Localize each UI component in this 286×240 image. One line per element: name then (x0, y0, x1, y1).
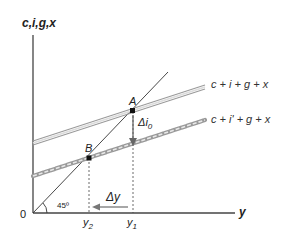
origin-label: 0 (20, 208, 26, 220)
lower-curve-label: c + i' + g + x (211, 113, 270, 125)
delta-y-label: Δy (106, 190, 120, 204)
point-b-marker (87, 156, 92, 161)
y1-tick-label: y1 (127, 216, 137, 231)
point-a-label: A (129, 95, 136, 107)
upper-curve (33, 85, 205, 145)
diagonal-45-line (33, 72, 168, 213)
point-a-marker (130, 108, 135, 113)
y-axis-title: c,i,g,x (22, 16, 56, 30)
y2-subscript: 2 (89, 222, 93, 231)
delta-i-text: Δi (138, 116, 148, 128)
delta-i-subscript: 0 (148, 122, 152, 131)
upper-curve-label: c + i + g + x (211, 78, 268, 90)
y2-tick-label: y2 (83, 216, 93, 231)
angle-arc (43, 203, 47, 213)
delta-i-label: Δi0 (138, 116, 152, 131)
x-axis-title: y (239, 205, 246, 219)
delta-y-arrow (92, 204, 128, 211)
y1-subscript: 1 (133, 222, 137, 231)
point-b-label: B (85, 142, 92, 154)
angle-label: 45º (57, 201, 69, 210)
lower-curve (33, 120, 205, 176)
